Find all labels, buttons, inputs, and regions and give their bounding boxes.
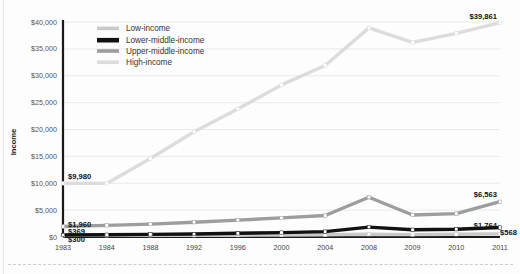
label-high-income-start: $9,980: [68, 172, 91, 181]
data-point-marker: [324, 230, 327, 233]
data-point-marker: [61, 182, 64, 185]
data-point-marker: [280, 83, 283, 86]
chart-legend: Low-incomeLower-middle-incomeUpper-middl…: [97, 24, 205, 67]
label-lower-middle-end: $1,764: [474, 221, 498, 230]
y-axis-title: Income: [9, 129, 18, 156]
legend-swatch: [97, 27, 119, 31]
legend-label-low-income: Low-income: [126, 24, 171, 33]
data-point-marker: [498, 21, 501, 24]
data-point-marker: [324, 64, 327, 67]
data-point-marker: [236, 107, 239, 110]
legend-swatch: [97, 61, 119, 65]
series-line-upper-middle-income: [63, 197, 500, 226]
data-point-marker: [455, 32, 458, 35]
data-point-marker: [411, 228, 414, 231]
legend-label-lower-middle-income: Lower-middle-income: [126, 36, 205, 45]
x-tick-label: 2004: [317, 243, 333, 252]
x-axis-tick-labels: 1983198419881992199620002004200820092010…: [55, 243, 508, 252]
y-tick-label: $0: [49, 233, 57, 242]
x-tick-label: 2000: [274, 243, 290, 252]
data-point-marker: [367, 196, 370, 199]
data-point-marker: [149, 233, 152, 236]
y-tick-label: $25,000: [31, 98, 57, 107]
x-tick-label: 1992: [186, 243, 202, 252]
y-tick-label: $20,000: [31, 125, 57, 134]
x-tick-label: 1984: [99, 243, 115, 252]
x-tick-label: 2010: [448, 243, 464, 252]
y-tick-label: $5,000: [35, 206, 57, 215]
data-point-marker: [324, 233, 327, 236]
data-point-marker: [498, 200, 501, 203]
data-point-marker: [280, 216, 283, 219]
y-tick-label: $15,000: [31, 152, 57, 161]
data-point-marker: [455, 212, 458, 215]
x-tick-label: 2008: [361, 243, 377, 252]
legend-swatch: [97, 38, 119, 43]
data-point-marker: [367, 26, 370, 29]
data-point-marker: [149, 222, 152, 225]
data-point-marker: [236, 232, 239, 235]
x-tick-label: 1996: [230, 243, 246, 252]
legend-swatch: [97, 49, 119, 53]
y-tick-label: $10,000: [31, 179, 57, 188]
y-axis-tick-labels: $0$5,000$10,000$15,000$20,000$25,000$30,…: [31, 18, 57, 242]
label-low-income-start: $300: [68, 235, 85, 244]
data-point-marker: [455, 228, 458, 231]
data-point-marker: [61, 233, 64, 236]
data-point-marker: [455, 233, 458, 236]
data-point-marker: [367, 225, 370, 228]
data-point-marker: [61, 225, 64, 228]
data-point-marker: [105, 182, 108, 185]
data-point-marker: [192, 130, 195, 133]
data-point-marker: [411, 213, 414, 216]
label-high-income-end: $39,861: [470, 12, 498, 21]
x-tick-label: 2009: [405, 243, 421, 252]
data-point-marker: [192, 232, 195, 235]
income-line-chart: $0$5,000$10,000$15,000$20,000$25,000$30,…: [0, 0, 520, 274]
data-point-marker: [105, 233, 108, 236]
x-tick-label: 1988: [142, 243, 158, 252]
label-upper-middle-end: $6,563: [474, 190, 497, 199]
x-tick-label: 2011: [492, 243, 507, 252]
y-tick-label: $30,000: [31, 71, 57, 80]
data-point-marker: [192, 221, 195, 224]
data-point-marker: [236, 218, 239, 221]
x-tick-label: 1983: [55, 243, 71, 252]
data-point-marker: [149, 157, 152, 160]
label-low-income-end: $568: [500, 228, 517, 237]
data-point-marker: [105, 224, 108, 227]
data-point-marker: [280, 231, 283, 234]
legend-label-upper-middle-income: Upper-middle-income: [126, 47, 205, 56]
legend-label-high-income: High-income: [126, 58, 172, 67]
chart-figure: $0$5,000$10,000$15,000$20,000$25,000$30,…: [0, 0, 520, 274]
data-point-marker: [324, 214, 327, 217]
y-tick-label: $40,000: [31, 18, 57, 27]
data-point-marker: [411, 41, 414, 44]
data-point-marker: [367, 233, 370, 236]
data-point-marker: [411, 233, 414, 236]
y-tick-label: $35,000: [31, 44, 57, 53]
